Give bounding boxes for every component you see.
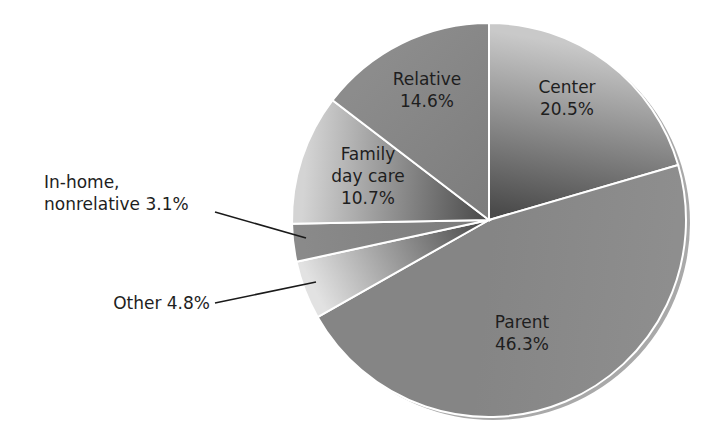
callout-line-other bbox=[215, 282, 316, 303]
callout-label-other: Other 4.8% bbox=[113, 293, 210, 313]
callout-label-in-home-nonrelative: In-home,nonrelative 3.1% bbox=[44, 172, 189, 214]
slice-label-family-day-care: Familyday care10.7% bbox=[331, 144, 405, 208]
pie-chart: Center20.5%Parent46.3%Other 4.8%In-home,… bbox=[0, 0, 727, 444]
pie-slices bbox=[292, 23, 686, 417]
